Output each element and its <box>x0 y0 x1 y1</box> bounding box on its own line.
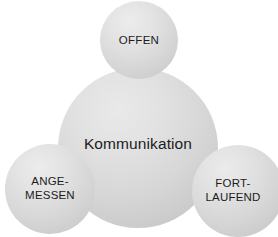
bubble-offen-label: OFFEN <box>119 34 159 48</box>
bubble-fortlaufend[interactable]: FORT- LAUFEND <box>192 145 278 237</box>
diagram-canvas: Kommunikation OFFEN ANGE- MESSEN FORT- L… <box>0 0 278 237</box>
bubble-angemessen-label: ANGE- MESSEN <box>25 175 75 202</box>
bubble-offen[interactable]: OFFEN <box>100 1 178 79</box>
bubble-angemessen[interactable]: ANGE- MESSEN <box>5 144 95 234</box>
bubble-kommunikation-label: Kommunikation <box>84 135 192 153</box>
bubble-fortlaufend-label: FORT- LAUFEND <box>205 177 260 204</box>
